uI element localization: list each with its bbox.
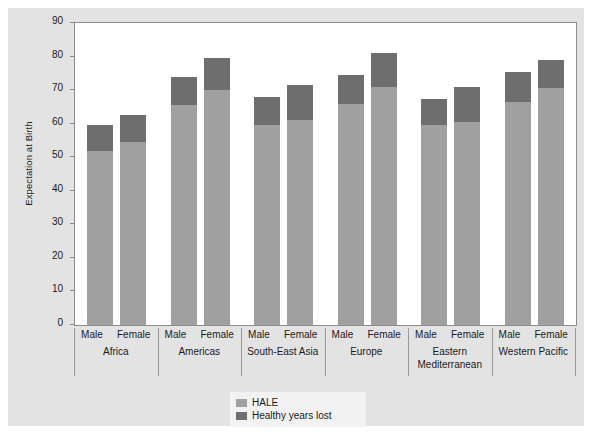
bar bbox=[421, 99, 447, 326]
y-axis-tick: 30 bbox=[9, 223, 75, 224]
bar-segment-hale bbox=[454, 122, 480, 325]
y-axis-tick-label: 40 bbox=[52, 183, 63, 194]
y-axis-tick: 10 bbox=[9, 290, 75, 291]
y-axis-tick: 0 bbox=[9, 324, 75, 325]
y-axis-tick-mark bbox=[70, 257, 75, 258]
bar-segment-healthy-years-lost bbox=[338, 75, 364, 104]
y-axis-title: Expectation at Birth bbox=[23, 84, 34, 244]
bar bbox=[87, 125, 113, 325]
sex-label-row: MaleFemale bbox=[325, 329, 409, 340]
group-separator bbox=[74, 328, 75, 376]
y-axis-tick-mark bbox=[70, 56, 75, 57]
legend-swatch bbox=[236, 399, 247, 407]
bar-segment-healthy-years-lost bbox=[171, 77, 197, 106]
group-separator bbox=[408, 328, 409, 376]
legend-label: Healthy years lost bbox=[252, 410, 331, 421]
bar-segment-hale bbox=[421, 125, 447, 325]
legend-item: HALE bbox=[236, 396, 360, 409]
y-axis-tick-label: 20 bbox=[52, 250, 63, 261]
y-axis-tick: 70 bbox=[9, 89, 75, 90]
bar-segment-hale bbox=[120, 142, 146, 325]
sex-label: Female bbox=[368, 329, 401, 340]
legend-item: Healthy years lost bbox=[236, 409, 360, 422]
chart-paper: Expectation at Birth 0102030405060708090… bbox=[8, 8, 584, 426]
sex-label: Female bbox=[535, 329, 568, 340]
y-axis-tick: 90 bbox=[9, 22, 75, 23]
sex-label: Female bbox=[284, 329, 317, 340]
y-axis-tick-label: 70 bbox=[52, 82, 63, 93]
sex-label: Male bbox=[499, 329, 521, 340]
bar-segment-hale bbox=[338, 104, 364, 325]
bar bbox=[254, 97, 280, 325]
region-label: Africa bbox=[74, 346, 158, 359]
y-axis-tick-label: 80 bbox=[52, 49, 63, 60]
y-axis-tick-label: 0 bbox=[57, 317, 63, 328]
bar bbox=[171, 77, 197, 325]
bar-segment-healthy-years-lost bbox=[287, 85, 313, 120]
bar-segment-healthy-years-lost bbox=[538, 60, 564, 89]
region-label: Europe bbox=[325, 346, 409, 359]
bar bbox=[454, 87, 480, 325]
sex-label: Male bbox=[248, 329, 270, 340]
group-separator bbox=[241, 328, 242, 376]
chart-legend: HALEHealthy years lost bbox=[230, 392, 366, 427]
y-axis-tick-label: 30 bbox=[52, 216, 63, 227]
sex-label: Male bbox=[332, 329, 354, 340]
group-separator bbox=[325, 328, 326, 376]
legend-swatch bbox=[236, 412, 247, 420]
bar-segment-hale bbox=[538, 88, 564, 325]
category-group: MaleFemaleEasternMediterranean bbox=[408, 326, 492, 378]
sex-label: Female bbox=[201, 329, 234, 340]
sex-label: Male bbox=[81, 329, 103, 340]
sex-label-row: MaleFemale bbox=[492, 329, 576, 340]
bar-segment-healthy-years-lost bbox=[120, 115, 146, 142]
bar-segment-healthy-years-lost bbox=[204, 58, 230, 90]
y-axis-tick: 20 bbox=[9, 257, 75, 258]
region-label: EasternMediterranean bbox=[408, 346, 492, 371]
bar bbox=[371, 53, 397, 325]
plot-inner: 0102030405060708090 bbox=[75, 23, 576, 325]
legend-label: HALE bbox=[252, 397, 278, 408]
y-axis-tick-mark bbox=[70, 223, 75, 224]
y-axis-tick-mark bbox=[70, 22, 75, 23]
region-label: Western Pacific bbox=[492, 346, 576, 359]
sex-label: Female bbox=[451, 329, 484, 340]
sex-label-row: MaleFemale bbox=[408, 329, 492, 340]
bar-segment-hale bbox=[287, 120, 313, 325]
category-group: MaleFemaleSouth-East Asia bbox=[241, 326, 325, 378]
y-axis-tick: 60 bbox=[9, 123, 75, 124]
sex-label: Male bbox=[165, 329, 187, 340]
bar-segment-healthy-years-lost bbox=[505, 72, 531, 102]
group-separator bbox=[492, 328, 493, 376]
y-axis-tick-mark bbox=[70, 89, 75, 90]
bar bbox=[120, 115, 146, 325]
y-axis-tick-mark bbox=[70, 290, 75, 291]
category-group: MaleFemaleAfrica bbox=[74, 326, 158, 378]
region-label: South-East Asia bbox=[241, 346, 325, 359]
sex-label: Female bbox=[117, 329, 150, 340]
y-axis-tick: 50 bbox=[9, 156, 75, 157]
y-axis-tick-mark bbox=[70, 324, 75, 325]
y-axis-tick: 40 bbox=[9, 190, 75, 191]
category-group: MaleFemaleAmericas bbox=[158, 326, 242, 378]
bar-segment-hale bbox=[171, 105, 197, 325]
y-axis-tick-mark bbox=[70, 123, 75, 124]
bar bbox=[538, 60, 564, 325]
category-group: MaleFemaleWestern Pacific bbox=[492, 326, 576, 378]
bar bbox=[338, 75, 364, 325]
bar-segment-healthy-years-lost bbox=[371, 53, 397, 87]
sex-label-row: MaleFemale bbox=[158, 329, 242, 340]
category-group: MaleFemaleEurope bbox=[325, 326, 409, 378]
y-axis-tick-label: 50 bbox=[52, 149, 63, 160]
category-label-band: MaleFemaleAfricaMaleFemaleAmericasMaleFe… bbox=[74, 326, 577, 378]
y-axis-tick: 80 bbox=[9, 56, 75, 57]
bar bbox=[287, 85, 313, 325]
sex-label-row: MaleFemale bbox=[241, 329, 325, 340]
y-axis-tick-mark bbox=[70, 156, 75, 157]
bar bbox=[505, 72, 531, 325]
bar-segment-hale bbox=[204, 90, 230, 325]
group-separator bbox=[158, 328, 159, 376]
plot-area: 0102030405060708090 bbox=[74, 22, 577, 326]
group-separator bbox=[575, 328, 576, 376]
bar-segment-hale bbox=[254, 125, 280, 325]
